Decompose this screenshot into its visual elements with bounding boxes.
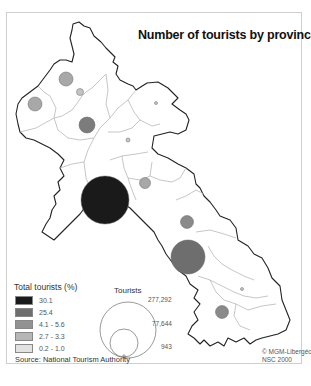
symbol-nw-1[interactable] — [59, 72, 73, 86]
legend-row-5: 0.2 - 1.0 — [15, 344, 65, 353]
legend-label: 30.1 — [39, 297, 53, 304]
size-legend-title: Tourists — [114, 286, 142, 295]
legend-title: Total tourists (%) — [14, 282, 77, 292]
size-legend-value-large: 277,292 — [148, 296, 172, 303]
legend-row-2: 25.4 — [15, 308, 53, 317]
source-note: Source: National Tourism Authority — [15, 355, 130, 364]
legend-swatch — [15, 320, 33, 329]
legend-row-3: 4.1 - 5.6 — [15, 320, 65, 329]
map-title: Number of tourists by province — [138, 28, 311, 42]
legend-swatch — [15, 308, 33, 317]
legend-swatch — [15, 344, 33, 353]
legend-row-1: 30.1 — [15, 296, 53, 305]
symbol-vientiane[interactable] — [81, 176, 129, 224]
symbol-ne-5[interactable] — [155, 102, 158, 105]
symbol-s-11[interactable] — [241, 288, 244, 291]
size-legend-circles — [100, 302, 156, 358]
credit-line-2: NSC 2000 — [262, 356, 311, 364]
symbol-s-12[interactable] — [216, 306, 229, 319]
symbol-s-10[interactable] — [171, 240, 205, 274]
legend-label: 0.2 - 1.0 — [39, 345, 65, 352]
legend-label: 4.1 - 5.6 — [39, 321, 65, 328]
credit-line-1: © MGM-Libergéo — [262, 348, 311, 356]
symbol-c-8[interactable] — [140, 178, 151, 189]
symbol-c-9[interactable] — [181, 216, 194, 229]
symbol-n-4[interactable] — [79, 117, 95, 133]
legend-label: 25.4 — [39, 309, 53, 316]
size-legend-value-small: 943 — [161, 343, 172, 350]
symbol-c-6[interactable] — [126, 138, 130, 142]
legend-row-4: 2.7 - 3.3 — [15, 332, 65, 341]
legend-swatch — [15, 296, 33, 305]
credit: © MGM-Libergéo NSC 2000 — [262, 348, 311, 364]
symbol-n-3[interactable] — [77, 89, 84, 96]
legend-swatch — [15, 332, 33, 341]
symbol-nw-2[interactable] — [28, 97, 42, 111]
legend-label: 2.7 - 3.3 — [39, 333, 65, 340]
size-legend-value-medium: 77,644 — [152, 320, 172, 327]
